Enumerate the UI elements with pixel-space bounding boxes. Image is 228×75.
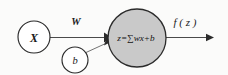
weight-edge-label: W [71, 16, 81, 27]
bias-node-label: b [72, 55, 77, 66]
neuron-diagram: X b z=∑wx+b W f ( z ) [0, 0, 228, 75]
edge-output-arrowhead [206, 34, 214, 41]
input-node-label: X [29, 31, 39, 45]
summation-node-formula: z=∑wx+b [116, 33, 155, 43]
output-edge-label: f ( z ) [174, 16, 197, 29]
diagram-canvas: X b z=∑wx+b W f ( z ) [0, 0, 228, 75]
